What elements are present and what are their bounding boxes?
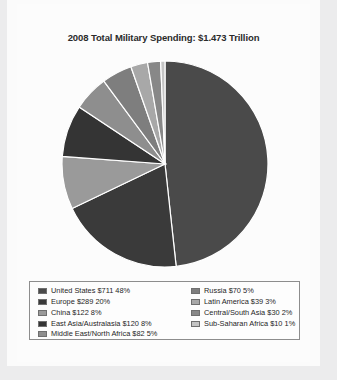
legend-item-label: East Asia/Australasia $120 8% (51, 319, 152, 329)
figure-page: 2008 Total Military Spending: $1.473 Tri… (0, 0, 337, 380)
legend-item-label: Europe $289 20% (51, 297, 110, 307)
legend-item-label: United States $711 48% (51, 286, 130, 296)
legend-columns: United States $711 48%Europe $289 20%Chi… (35, 286, 297, 338)
legend-item: Latin America $39 3% (191, 297, 301, 307)
pie-chart-svg (61, 56, 269, 272)
legend-swatch (38, 288, 47, 294)
legend-item: Sub-Saharan Africa $10 1% (191, 318, 301, 328)
legend-item-label: Middle East/North Africa $82 5% (51, 329, 157, 339)
legend-swatch (38, 310, 47, 316)
legend-item: Europe $289 20% (38, 297, 193, 307)
legend-item: East Asia/Australasia $120 8% (38, 318, 193, 328)
legend-column-right: Russia $70 5%Latin America $39 3%Central… (191, 286, 301, 329)
chart-title: 2008 Total Military Spending: $1.473 Tri… (7, 32, 320, 43)
legend-swatch (38, 299, 47, 305)
legend-swatch (191, 299, 200, 305)
legend-item-label: Sub-Saharan Africa $10 1% (204, 319, 295, 329)
legend-item: China $122 8% (38, 308, 193, 318)
legend-swatch (38, 321, 47, 327)
legend-swatch (191, 310, 200, 316)
legend-column-left: United States $711 48%Europe $289 20%Chi… (38, 286, 193, 340)
legend-swatch (38, 331, 47, 337)
pie-slice-group (62, 61, 268, 267)
figure-caption (18, 371, 318, 380)
legend-item: United States $711 48% (38, 286, 193, 296)
legend: United States $711 48%Europe $289 20%Chi… (29, 281, 300, 340)
legend-swatch (191, 321, 200, 327)
legend-item: Central/South Asia $30 2% (191, 308, 301, 318)
legend-item: Russia $70 5% (191, 286, 301, 296)
legend-item-label: Central/South Asia $30 2% (204, 308, 292, 318)
legend-item-label: Latin America $39 3% (204, 297, 276, 307)
pie-slice (165, 61, 268, 266)
pie-chart (61, 56, 269, 272)
content-sheet: 2008 Total Military Spending: $1.473 Tri… (7, 0, 320, 366)
legend-swatch (191, 288, 200, 294)
legend-item-label: Russia $70 5% (204, 286, 254, 296)
legend-item: Middle East/North Africa $82 5% (38, 329, 193, 339)
legend-item-label: China $122 8% (51, 308, 102, 318)
